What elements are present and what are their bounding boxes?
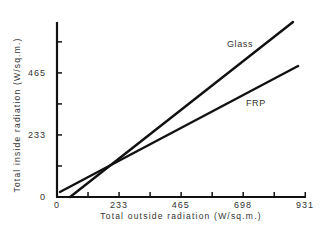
series-line-glass xyxy=(70,22,293,197)
series-line-frp xyxy=(60,66,298,192)
y-tick-label: 465 xyxy=(28,68,46,78)
y-tick-label: 0 xyxy=(40,192,46,202)
series-lines xyxy=(60,22,298,197)
y-tick-label: 233 xyxy=(28,130,46,140)
x-tick-label: 465 xyxy=(172,200,190,210)
x-tick-labels: 0233465698931 xyxy=(54,200,314,210)
x-axis-title: Total outside radiation (W/sq.m.) xyxy=(100,211,261,221)
y-tick-labels: 0233465 xyxy=(28,68,46,202)
x-tick-label: 698 xyxy=(234,200,252,210)
x-tick-label: 931 xyxy=(296,200,314,210)
series-label-frp: FRP xyxy=(246,98,266,108)
radiation-chart: 0233465698931 0233465 GlassFRP Total out… xyxy=(0,0,331,240)
x-tick-label: 0 xyxy=(54,200,60,210)
x-tick-label: 233 xyxy=(110,200,128,210)
y-axis-title: Total inside radiation (W/sq.m.) xyxy=(12,37,22,192)
series-label-glass: Glass xyxy=(227,39,253,49)
